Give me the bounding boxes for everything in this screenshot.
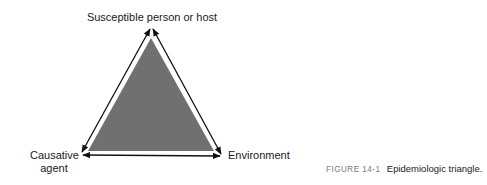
figure-caption-text: Epidemiologic triangle. bbox=[387, 163, 483, 174]
vertex-label-environment: Environment bbox=[228, 149, 290, 162]
epidemiologic-triangle-figure: Susceptible person or host Causative age… bbox=[0, 0, 487, 185]
figure-caption: FIGURE 14-1 Epidemiologic triangle. bbox=[326, 163, 482, 174]
figure-number: FIGURE 14-1 bbox=[326, 163, 381, 174]
vertex-label-host: Susceptible person or host bbox=[87, 11, 217, 24]
arrow-agent-environment bbox=[83, 155, 220, 156]
triangle-fill bbox=[88, 38, 214, 151]
vertex-label-agent: Causative agent bbox=[30, 149, 78, 175]
vertex-label-agent-line1: Causative bbox=[30, 149, 78, 162]
vertex-label-agent-line2: agent bbox=[30, 162, 78, 175]
